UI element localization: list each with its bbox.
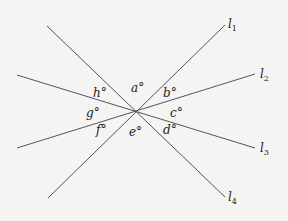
angle-f: f° [95, 123, 106, 137]
angle-c: c° [170, 106, 183, 120]
angle-a: a° [131, 81, 144, 95]
line-labels: l1 l2 l3 l4 [228, 17, 269, 206]
diagram-canvas: l1 l2 l3 l4 a° b° c° d° e° f° g° h° [0, 0, 288, 221]
angle-h: h° [93, 86, 107, 100]
angle-e: e° [129, 125, 142, 139]
label-l2: l2 [260, 67, 269, 83]
label-l3: l3 [260, 141, 269, 157]
angle-g: g° [86, 106, 100, 120]
angle-d: d° [163, 123, 177, 137]
label-l4: l4 [228, 190, 237, 206]
angle-b: b° [163, 86, 177, 100]
label-l1: l1 [228, 17, 237, 33]
